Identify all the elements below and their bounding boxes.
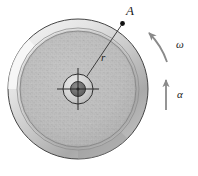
point-a-label: A (125, 3, 134, 18)
radius-label: r (101, 51, 106, 63)
hub-center-dot (76, 87, 79, 90)
omega-label: ω (176, 38, 184, 50)
omega-arrow-icon (149, 33, 167, 62)
alpha-label: α (177, 88, 183, 100)
figure-canvas: A r ω α (0, 0, 198, 176)
point-a-marker (120, 21, 125, 26)
rotating-disk-figure: A r ω α (0, 0, 198, 176)
